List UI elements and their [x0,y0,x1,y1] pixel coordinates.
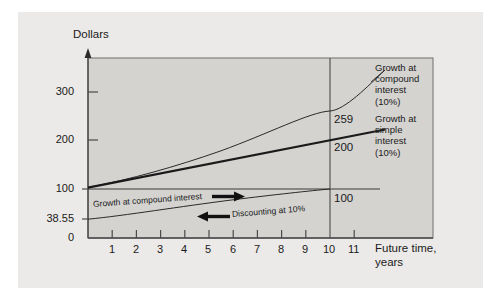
chart-figure: Dollars 300 200 100 38.55 0 1 2 3 4 5 6 … [0,0,501,302]
x-tick-label-5: 5 [205,243,211,256]
y-tick-label-38-55: 38.55 [16,212,74,225]
legend-compound-interest: Growth at compound interest (10%) [375,62,419,107]
x-tick-label-2: 2 [133,243,139,256]
legend-compound-line-3: interest [375,84,419,95]
legend-simple-line-4: (10%) [375,147,416,158]
y-tick-label-200: 200 [26,133,74,146]
legend-simple-interest: Growth at simple interest (10%) [375,113,416,158]
x-tick-label-4: 4 [181,243,187,256]
value-label-principal-100: 100 [334,192,353,206]
x-axis-title-line1: Future time, [375,242,436,256]
y-axis-arrow-icon [85,48,92,58]
x-tick-label-8: 8 [278,243,284,256]
legend-compound-line-4: (10%) [375,96,419,107]
x-tick-label-9: 9 [302,243,308,256]
x-tick-label-10: 10 [323,243,335,256]
legend-simple-line-3: interest [375,135,416,146]
value-label-simple-200: 200 [334,141,353,155]
x-tick-label-6: 6 [230,243,236,256]
y-tick-label-0: 0 [26,231,74,244]
y-tick-label-300: 300 [26,85,74,98]
legend-simple-line-1: Growth at [375,113,416,124]
value-label-compound-259: 259 [334,113,353,127]
chart-canvas [0,0,501,302]
legend-simple-line-2: simple [375,124,416,135]
legend-compound-line-1: Growth at [375,62,419,73]
x-tick-label-1: 1 [109,243,115,256]
x-axis-title-line2: years [375,256,403,270]
y-tick-label-100: 100 [26,182,74,195]
legend-compound-line-2: compound [375,73,419,84]
y-axis-title: Dollars [73,28,109,42]
x-tick-label-7: 7 [254,243,260,256]
x-tick-label-11: 11 [348,243,359,256]
x-tick-label-3: 3 [157,243,163,256]
